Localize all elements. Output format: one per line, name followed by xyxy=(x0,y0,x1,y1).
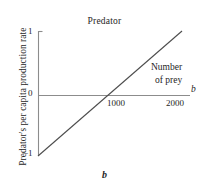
y-tick-label-1: 1 xyxy=(28,27,33,36)
y-tick-label-neg1: −1 xyxy=(23,149,33,158)
data-line-series-1 xyxy=(38,31,182,156)
figure-panel: Predator Predator's per capita productio… xyxy=(0,0,209,188)
y-tick-label-0: 0 xyxy=(28,89,33,98)
x-axis-label-line-2: of prey xyxy=(155,76,182,86)
x-tick-label-2000: 2000 xyxy=(166,99,184,108)
x-tick-label-1000: 1000 xyxy=(107,99,125,108)
x-axis-variable-symbol: b xyxy=(191,85,196,95)
x-axis-label-line-1: Number xyxy=(151,63,182,73)
panel-caption: b xyxy=(0,170,209,180)
